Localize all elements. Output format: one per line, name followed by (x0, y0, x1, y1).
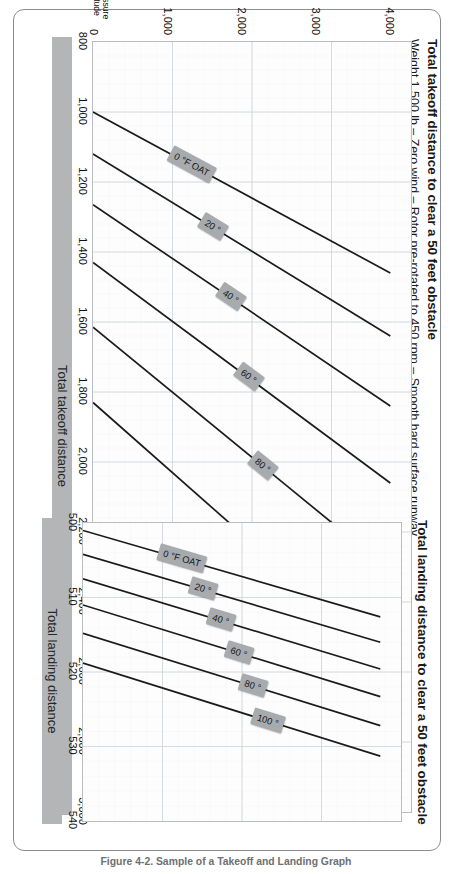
x-tick-label: 500 (67, 513, 79, 531)
y-tick-label: 4,000 (384, 1, 396, 35)
landing-plot-area (82, 522, 402, 822)
y-tick-label: 1,000 (162, 1, 174, 35)
landing-chart-title: Total landing distance to clear a 50 fee… (415, 520, 430, 825)
pressure-altitude-line2: altitude (92, 0, 101, 25)
x-tick-label: 530 (67, 736, 79, 754)
takeoff-chart-title: Total takeoff distance to clear a 50 fee… (425, 39, 440, 340)
document-page: Total takeoff distance to clear a 50 fee… (0, 0, 452, 874)
x-tick-label: 1,600 (77, 307, 89, 335)
landing-axis-band-label: Total landing distance (45, 518, 60, 824)
landing-chart: Total landing distance to clear a 50 fee… (18, 494, 428, 846)
pressure-altitude-line1: Pressure (101, 0, 110, 25)
landing-axis-band: Total landing distance (42, 518, 62, 824)
x-tick-label: 1,800 (77, 377, 89, 405)
x-tick-label: 1,200 (77, 167, 89, 195)
y-tick-label: 2,000 (236, 1, 248, 35)
y-tick-label: 3,000 (310, 1, 322, 35)
x-tick-label: 510 (67, 587, 79, 605)
figure-caption: Figure 4-2. Sample of a Takeoff and Land… (0, 856, 452, 874)
x-tick-label: 2,000 (77, 447, 89, 475)
landing-oat-curves (83, 523, 401, 821)
x-tick-label: 1,000 (77, 97, 89, 125)
x-tick-label: 520 (67, 662, 79, 680)
pressure-altitude-axis-label: Pressure altitude (92, 0, 110, 25)
x-tick-label: 1,400 (77, 237, 89, 265)
x-tick-label: 540 (67, 811, 79, 829)
